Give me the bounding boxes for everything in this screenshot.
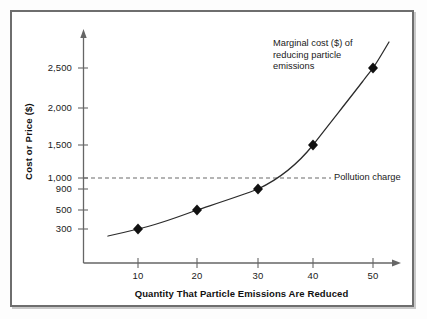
y-tick-label-500: 500 (28, 204, 72, 215)
y-tick-label-900: 900 (28, 183, 72, 194)
series-annotation: Marginal cost ($) of reducing particle e… (273, 38, 353, 73)
y-tick-label-2000: 2,000 (28, 102, 72, 113)
x-tick-label-10: 10 (118, 270, 158, 281)
x-tick-label-20: 20 (177, 270, 217, 281)
x-tick-label-30: 30 (238, 270, 278, 281)
pollution-charge-label: Pollution charge (334, 172, 401, 182)
y-axis-title: Cost or Price ($) (23, 87, 34, 197)
chart-figure: 2,500 2,000 1,500 1,000 900 500 300 10 2… (0, 0, 427, 319)
y-tick-label-1500: 1,500 (28, 139, 72, 150)
x-axis-title: Quantity That Particle Emissions Are Red… (83, 288, 400, 299)
figure-border (10, 10, 414, 307)
y-tick-label-2500: 2,500 (28, 62, 72, 73)
x-tick-label-40: 40 (293, 270, 333, 281)
y-tick-label-1000: 1,000 (28, 172, 72, 183)
y-tick-label-300: 300 (28, 223, 72, 234)
series-annotation-line-3: emissions (273, 61, 353, 73)
series-annotation-line-2: reducing particle (273, 50, 353, 62)
x-tick-label-50: 50 (353, 270, 393, 281)
series-annotation-line-1: Marginal cost ($) of (273, 38, 353, 50)
